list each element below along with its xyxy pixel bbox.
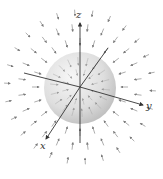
vector-field-diagram: z y x (0, 0, 163, 179)
field-arrow (52, 121, 56, 127)
field-arrow (87, 143, 88, 150)
field-arrow (52, 47, 56, 53)
field-arrow (135, 79, 142, 80)
field-arrow (131, 108, 138, 111)
field-arrow (42, 37, 46, 43)
field-arrow (144, 55, 150, 58)
field-arrow (87, 24, 88, 31)
field-arrow (101, 29, 104, 36)
field-arrow (117, 148, 120, 153)
field-arrow (72, 24, 73, 31)
field-arrow (23, 109, 30, 112)
field-arrow (65, 127, 67, 134)
z-axis-label: z (75, 9, 82, 20)
field-arrow (113, 58, 119, 62)
field-arrow (124, 49, 130, 53)
field-arrow (26, 33, 30, 37)
field-arrow (135, 94, 142, 95)
field-arrow (101, 139, 104, 146)
field-arrow (114, 132, 118, 138)
field-arrow (131, 63, 138, 66)
field-arrow (149, 72, 155, 73)
field-arrow (93, 40, 95, 47)
field-arrow (56, 139, 59, 146)
field-arrow (113, 112, 119, 116)
field-arrow (15, 48, 20, 51)
field-arrow (5, 101, 11, 102)
field-arrow (34, 100, 41, 102)
field-arrow (104, 121, 108, 127)
field-arrow (124, 121, 130, 125)
field-arrow (34, 144, 38, 149)
field-arrow (40, 21, 43, 26)
field-arrow (113, 37, 117, 43)
field-arrow (119, 72, 126, 74)
field-arrow (21, 132, 26, 136)
field-arrow (67, 157, 68, 163)
x-axis-label: x (40, 140, 46, 151)
field-arrow (31, 121, 37, 125)
field-arrow (72, 143, 73, 150)
field-arrow (93, 127, 95, 134)
field-arrow (31, 49, 37, 53)
field-arrow (19, 79, 26, 80)
field-arrow (50, 152, 52, 158)
field-arrow (11, 117, 17, 120)
field-arrow (140, 123, 145, 126)
field-arrow (135, 39, 140, 43)
field-arrow (41, 112, 47, 116)
field-arrow (92, 11, 93, 17)
field-arrow (65, 40, 67, 47)
field-arrow (56, 29, 59, 36)
field-arrow (34, 72, 41, 74)
field-arrow (57, 13, 59, 19)
field-arrow (23, 63, 30, 66)
field-arrow (19, 94, 26, 95)
field-arrow (42, 132, 46, 138)
field-arrow (130, 137, 134, 141)
field-arrow (7, 65, 13, 67)
field-arrow (108, 16, 110, 22)
field-arrow (123, 26, 127, 31)
y-axis-label: y (145, 100, 152, 111)
field-arrow (102, 155, 104, 161)
field-arrow (41, 58, 47, 62)
